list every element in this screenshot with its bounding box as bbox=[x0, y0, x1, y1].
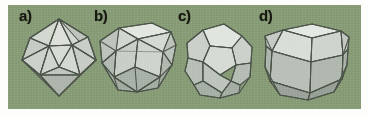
label-d: d) bbox=[259, 8, 273, 23]
figure-root: a) b) c) d) bbox=[0, 0, 369, 117]
label-a: a) bbox=[19, 8, 32, 23]
figure-panel: a) b) c) d) bbox=[8, 5, 361, 109]
label-c: c) bbox=[178, 8, 191, 23]
label-b: b) bbox=[94, 8, 108, 23]
